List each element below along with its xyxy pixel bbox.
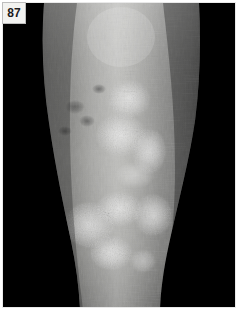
clinical-photograph-limb bbox=[3, 3, 236, 308]
limb-illustration bbox=[3, 3, 236, 308]
figure-plate: 87 Grayscale clinical photograph of an a… bbox=[0, 0, 238, 310]
figure-number-text: 87 bbox=[7, 7, 20, 19]
photograph-frame bbox=[2, 2, 236, 308]
figure-number-label: 87 bbox=[2, 2, 26, 24]
